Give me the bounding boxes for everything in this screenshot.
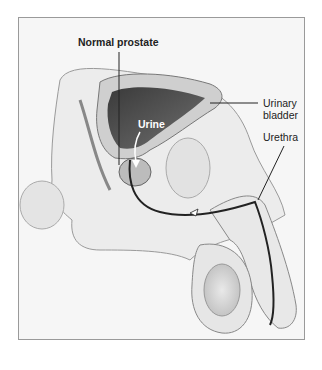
testis (204, 264, 240, 316)
label-urethra: Urethra (263, 131, 298, 143)
label-normal-prostate: Normal prostate (78, 36, 159, 48)
label-bladder: bladder (263, 109, 298, 121)
label-urinary: Urinary (263, 97, 297, 109)
label-urine: Urine (138, 118, 165, 130)
anatomy-illustration (0, 0, 322, 370)
pubic-bone (166, 138, 210, 198)
